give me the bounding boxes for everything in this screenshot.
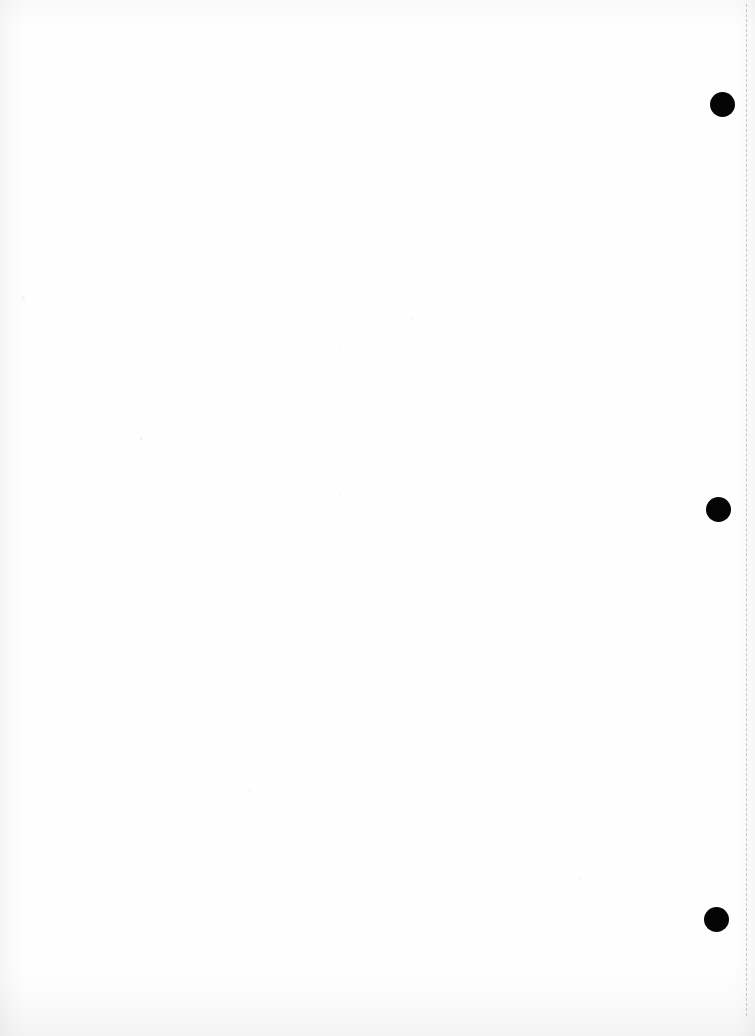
scan-speckle bbox=[412, 318, 414, 320]
hole-punch-mark bbox=[704, 907, 729, 932]
scan-speckle bbox=[580, 878, 582, 880]
scan-speckle bbox=[249, 790, 251, 792]
paper-surface bbox=[0, 0, 755, 1036]
scan-speckle bbox=[339, 493, 341, 495]
scanned-page bbox=[0, 0, 755, 1036]
scan-speckle bbox=[140, 437, 143, 440]
hole-punch-mark bbox=[706, 497, 731, 522]
scan-speckle bbox=[22, 296, 25, 299]
scan-speckle bbox=[340, 349, 342, 351]
hole-punch-mark bbox=[710, 92, 735, 117]
